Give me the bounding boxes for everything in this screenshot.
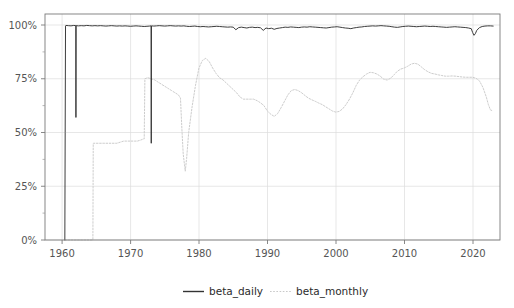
x-tick-label-1990: 1990	[255, 248, 280, 259]
x-tick-label-2010: 2010	[392, 248, 417, 259]
y-tick-label-0: 0%	[21, 235, 37, 246]
legend-label-beta-daily[interactable]: beta_daily	[209, 285, 263, 298]
x-tick-label-2020: 2020	[460, 248, 485, 259]
y-axis-ticks	[41, 25, 45, 240]
line-chart-plot: 0% 25% 50% 75% 100% 1960 1970 1980 1990 …	[0, 0, 514, 308]
x-axis-ticks	[62, 240, 473, 244]
y-tick-label-75: 75%	[15, 73, 37, 84]
horizontal-gridlines	[45, 25, 500, 240]
vertical-gridlines	[62, 14, 473, 240]
series-line-beta-monthly	[65, 58, 493, 240]
y-axis-tick-labels: 0% 25% 50% 75% 100%	[8, 20, 37, 246]
legend-label-beta-monthly[interactable]: beta_monthly	[296, 285, 368, 298]
x-tick-label-1960: 1960	[49, 248, 74, 259]
chart-figure: 0% 25% 50% 75% 100% 1960 1970 1980 1990 …	[0, 0, 514, 308]
y-tick-label-100: 100%	[8, 20, 37, 31]
plot-frame	[45, 14, 500, 240]
x-axis-tick-labels: 1960 1970 1980 1990 2000 2010 2020	[49, 248, 485, 259]
y-tick-label-50: 50%	[15, 127, 37, 138]
chart-legend: beta_daily beta_monthly	[183, 285, 368, 298]
y-tick-label-25: 25%	[15, 181, 37, 192]
x-tick-label-1970: 1970	[118, 248, 143, 259]
x-tick-label-1980: 1980	[186, 248, 211, 259]
x-tick-label-2000: 2000	[323, 248, 348, 259]
